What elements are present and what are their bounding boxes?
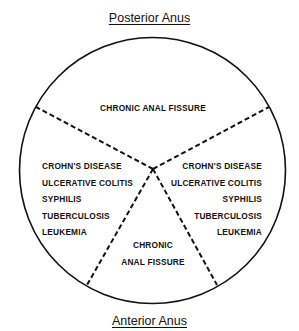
sector-top-label: CHRONIC ANAL FISSURE bbox=[0, 100, 299, 117]
sector-bottom-label: CHRONIC ANAL FISSURE bbox=[105, 237, 201, 270]
sector-left-label: CROHN'S DISEASE ULCERATIVE COLITIS SYPHI… bbox=[42, 158, 133, 241]
sector-right-label: CROHN'S DISEASE ULCERATIVE COLITIS SYPHI… bbox=[171, 158, 262, 241]
anterior-anus-label: Anterior Anus bbox=[0, 314, 299, 328]
